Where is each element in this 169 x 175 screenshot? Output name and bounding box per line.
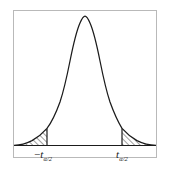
left-label-subscript: α/2 <box>44 155 52 162</box>
left-critical-value-label: −tα/2 <box>34 149 52 160</box>
density-curve <box>14 16 156 145</box>
distribution-plot <box>0 0 169 175</box>
right-tail-region <box>122 128 156 145</box>
left-label-minus: − <box>34 148 40 160</box>
t-distribution-figure: −tα/2 tα/2 <box>0 0 169 175</box>
left-label-variable: t <box>40 148 43 160</box>
left-tail-region <box>14 128 47 145</box>
right-label-subscript: α/2 <box>119 155 127 162</box>
right-critical-value-label: tα/2 <box>116 149 128 160</box>
